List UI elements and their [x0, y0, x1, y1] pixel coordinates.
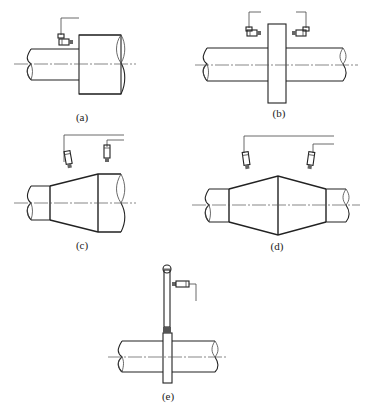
panel-c: (c): [14, 135, 136, 252]
panel-d: (d): [192, 136, 360, 253]
panel-c-label: (c): [76, 239, 89, 252]
proximity-probe-right-icon: [292, 12, 309, 36]
lever-arm-icon: [163, 265, 171, 333]
panel-e-label: (e): [162, 390, 175, 403]
proximity-probe-left-icon: [246, 12, 261, 36]
panel-a-label: (a): [76, 111, 89, 124]
proximity-probe-icon: [172, 281, 196, 301]
panel-d-label: (d): [271, 240, 284, 253]
panel-b: (b): [195, 12, 358, 120]
panel-a: (a): [14, 18, 136, 124]
proximity-probe-right-icon: [306, 144, 334, 169]
proximity-probe-left-icon: [242, 136, 334, 169]
panel-b-label: (b): [273, 107, 286, 120]
panel-e: (e): [108, 265, 228, 403]
proximity-probe-icon: [58, 18, 79, 45]
diagram-canvas: (a) (b): [0, 0, 372, 411]
proximity-probe-right-icon: [104, 140, 124, 162]
